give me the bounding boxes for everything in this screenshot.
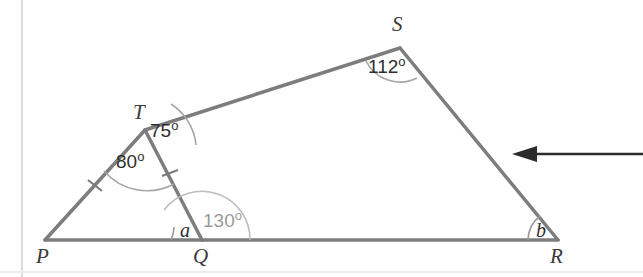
angle-arc-T-lower <box>104 171 174 191</box>
angle-value-S: 112 <box>368 56 398 77</box>
angle-value-T-lower: 80 <box>116 151 137 172</box>
vertex-label-T: T <box>133 102 145 123</box>
degree-symbol-S: o <box>398 54 405 69</box>
geometry-figure <box>0 0 643 277</box>
segment-RS <box>400 48 558 240</box>
vertex-label-R: R <box>550 246 563 267</box>
vertex-label-Q: Q <box>193 246 208 267</box>
segment-ST <box>145 48 400 130</box>
angle-value-T-upper: 75 <box>150 120 171 141</box>
figure-canvas: P Q R S T 112o 75o 80o 130o a b <box>0 0 643 277</box>
angle-label-T-lower: 80o <box>116 150 144 171</box>
vertex-label-P: P <box>36 246 49 267</box>
angle-label-Q-right: 130o <box>203 209 242 230</box>
angle-label-R: b <box>536 220 546 240</box>
angle-label-T-upper: 75o <box>150 119 178 140</box>
angle-value-Q-right: 130 <box>203 210 235 231</box>
degree-symbol-T-upper: o <box>171 118 178 133</box>
pointer-arrow <box>512 146 643 162</box>
angle-label-Q-left: a <box>180 220 190 240</box>
angle-arc-Q-left <box>171 227 174 240</box>
angle-label-S: 112o <box>368 55 406 76</box>
vertex-label-S: S <box>392 14 403 35</box>
degree-symbol-Q-right: o <box>235 208 242 223</box>
degree-symbol-T-lower: o <box>137 149 144 164</box>
